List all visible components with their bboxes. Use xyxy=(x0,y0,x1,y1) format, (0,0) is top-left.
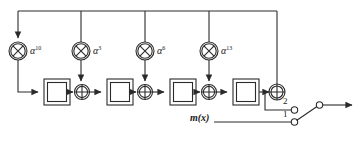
switch-arm[interactable] xyxy=(297,107,318,121)
encoder-diagram: α10 α3 α6 α13 m(x) 2 1 xyxy=(0,0,362,142)
multiplier-alpha-10-glyph xyxy=(9,42,27,60)
xor-adder-1-glyph xyxy=(75,85,90,100)
switch-output-pivot[interactable] xyxy=(316,102,322,108)
multiplier-alpha-6-glyph xyxy=(136,42,154,60)
xor-adder-2-glyph xyxy=(138,85,153,100)
shift-register-4-glyph xyxy=(233,79,259,105)
shift-register-2-glyph xyxy=(107,79,133,105)
diagram-canvas xyxy=(0,0,362,142)
switch-position-2-label: 2 xyxy=(283,97,288,106)
shift-register-3-glyph xyxy=(170,79,196,105)
switch-terminal-2[interactable] xyxy=(291,107,297,113)
multiplier-alpha-3-glyph xyxy=(72,42,90,60)
multiplier-alpha-13-glyph xyxy=(200,42,218,60)
xor-adder-3-glyph xyxy=(202,85,217,100)
multiplier-label-4: α13 xyxy=(221,45,232,56)
mult1-output-line xyxy=(18,60,38,92)
message-input-label: m(x) xyxy=(190,113,209,123)
multiplier-label-1: α10 xyxy=(30,45,41,56)
switch-position-1-label: 1 xyxy=(283,110,288,119)
multiplier-label-3: α6 xyxy=(157,45,165,56)
shift-register-1-glyph xyxy=(44,79,70,105)
multiplier-label-2: α3 xyxy=(93,45,101,56)
